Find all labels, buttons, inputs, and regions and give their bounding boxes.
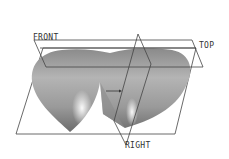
model-viewport[interactable]: FRONT TOP RIGHT <box>0 0 229 159</box>
front-plane-label[interactable]: FRONT <box>33 34 59 42</box>
top-plane-label[interactable]: TOP <box>199 42 214 50</box>
right-plane-label[interactable]: RIGHT <box>125 142 151 150</box>
model-graphics <box>0 0 229 159</box>
heart-solid <box>32 48 191 132</box>
